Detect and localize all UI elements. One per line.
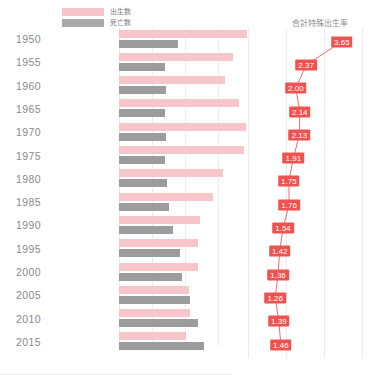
bar-row: 2015 <box>0 331 232 354</box>
bar-deaths-1950 <box>119 40 178 48</box>
legend-item-deaths: 死亡数 <box>62 18 131 27</box>
fertility-label-2010: 1.39 <box>268 316 290 327</box>
bar-row: 1985 <box>0 191 232 214</box>
chart-container: 出生数 死亡数 19501955196019651970197519801985… <box>0 0 369 375</box>
y-axis-label-2010: 2010 <box>16 313 41 325</box>
bar-row: 2005 <box>0 284 232 307</box>
bar-deaths-1960 <box>119 86 166 94</box>
y-axis-label-1950: 1950 <box>16 33 41 45</box>
bar-row: 1980 <box>0 168 232 191</box>
bar-row: 1965 <box>0 98 232 121</box>
y-axis-label-1955: 1955 <box>16 56 41 68</box>
bar-births-1965 <box>119 99 239 107</box>
legend-item-births: 出生数 <box>62 7 131 16</box>
bar-chart-panel: 1950195519601965197019751980198519901995… <box>0 28 232 358</box>
y-axis-label-1995: 1995 <box>16 243 41 255</box>
fertility-label-1985: 1.76 <box>278 199 300 210</box>
bar-row: 2010 <box>0 308 232 331</box>
bar-row: 1955 <box>0 51 232 74</box>
bar-deaths-1955 <box>119 63 165 71</box>
bar-row: 2000 <box>0 261 232 284</box>
bar-births-1975 <box>119 146 244 154</box>
bar-deaths-1990 <box>119 226 173 234</box>
legend-swatch-births <box>62 8 104 16</box>
bar-deaths-2005 <box>119 296 190 304</box>
bar-row: 1975 <box>0 145 232 168</box>
bar-row: 1950 <box>0 28 232 51</box>
bar-deaths-1970 <box>119 133 166 141</box>
bar-row: 1960 <box>0 75 232 98</box>
bar-row: 1970 <box>0 121 232 144</box>
fertility-label-1960: 2.00 <box>285 83 307 94</box>
bar-births-1995 <box>119 239 198 247</box>
fertility-label-1980: 1.75 <box>278 176 300 187</box>
y-axis-label-2015: 2015 <box>16 336 41 348</box>
bar-births-2005 <box>119 286 189 294</box>
bar-births-2010 <box>119 309 190 317</box>
bar-births-1960 <box>119 76 225 84</box>
y-axis-label-1970: 1970 <box>16 126 41 138</box>
fertility-label-1995: 1.42 <box>269 246 291 257</box>
bar-deaths-1965 <box>119 109 165 117</box>
chart-legend: 出生数 死亡数 <box>62 7 131 29</box>
bar-deaths-2015 <box>119 342 204 350</box>
bar-deaths-1995 <box>119 249 180 257</box>
fertility-label-2005: 1.26 <box>264 292 286 303</box>
fertility-label-1975: 1.91 <box>283 153 305 164</box>
bar-deaths-2000 <box>119 273 182 281</box>
legend-swatch-deaths <box>62 19 104 27</box>
fertility-label-1990: 1.54 <box>272 223 294 234</box>
bar-births-1970 <box>119 123 246 131</box>
fertility-label-1955: 2.37 <box>295 59 317 70</box>
bar-row: 1995 <box>0 238 232 261</box>
fertility-label-1965: 2.14 <box>289 106 311 117</box>
fertility-label-2015: 1.46 <box>270 339 292 350</box>
bar-deaths-2010 <box>119 319 198 327</box>
y-axis-label-1965: 1965 <box>16 103 41 115</box>
bar-deaths-1975 <box>119 156 165 164</box>
fertility-label-1970: 2.13 <box>289 129 311 140</box>
y-axis-label-2000: 2000 <box>16 266 41 278</box>
y-axis-label-1960: 1960 <box>16 80 41 92</box>
bar-births-1955 <box>119 53 233 61</box>
fertility-label-1950: 3.65 <box>331 36 353 47</box>
y-axis-label-2005: 2005 <box>16 289 41 301</box>
bar-births-2000 <box>119 263 198 271</box>
y-axis-label-1985: 1985 <box>16 196 41 208</box>
legend-label-deaths: 死亡数 <box>110 19 131 27</box>
bar-births-1980 <box>119 169 223 177</box>
fertility-line-panel: 合計特殊出生率 3.652.372.002.142.131.911.751.76… <box>248 14 369 359</box>
fertility-label-2000: 1.36 <box>267 269 289 280</box>
bar-births-1990 <box>119 216 200 224</box>
bar-births-2015 <box>119 332 186 340</box>
bar-births-1985 <box>119 193 213 201</box>
bar-deaths-1985 <box>119 203 169 211</box>
y-axis-label-1980: 1980 <box>16 173 41 185</box>
legend-label-births: 出生数 <box>110 8 131 16</box>
bar-row: 1990 <box>0 214 232 237</box>
bar-births-1950 <box>119 30 247 38</box>
bar-deaths-1980 <box>119 179 167 187</box>
y-axis-label-1975: 1975 <box>16 150 41 162</box>
y-axis-label-1990: 1990 <box>16 219 41 231</box>
